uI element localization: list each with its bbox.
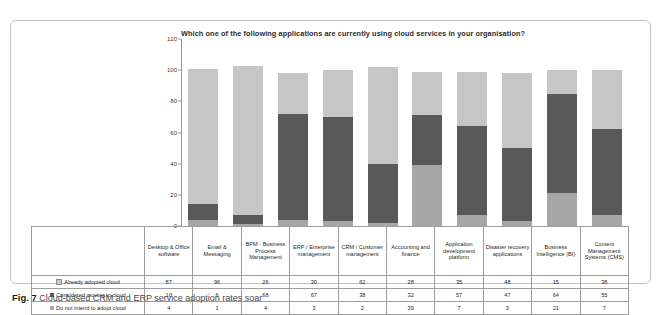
legend-swatch-icon xyxy=(56,279,62,285)
bar-segment xyxy=(233,66,263,216)
table-column-header: Business Intelligence (BI) xyxy=(532,227,580,276)
bar-segment xyxy=(323,117,353,221)
bar-segment xyxy=(412,115,442,165)
stacked-bar xyxy=(592,70,622,226)
bar-slot xyxy=(360,39,405,226)
bar-segment xyxy=(502,148,532,221)
table-column-header: Content Management Systems (CMS) xyxy=(580,227,628,276)
bar-segment xyxy=(368,164,398,223)
bar-segment xyxy=(502,73,532,148)
table-cell-value: 96 xyxy=(193,276,241,289)
bar-slot xyxy=(405,39,450,226)
table-column-header: Accounting and finance xyxy=(386,227,434,276)
table-cell-value: 1 xyxy=(193,302,241,315)
bar-segment xyxy=(412,165,442,226)
table-column-header: ERP / Enterprise management xyxy=(290,227,338,276)
table-cell-value: 2 xyxy=(338,302,386,315)
table-cell-value: 39 xyxy=(386,302,434,315)
stacked-bar xyxy=(412,72,442,226)
table-cell-value: 87 xyxy=(145,276,193,289)
y-axis-tick-label: 100 xyxy=(167,67,177,73)
y-axis-tick-label: 120 xyxy=(167,36,177,42)
table-corner-cell xyxy=(32,227,145,276)
bar-segment xyxy=(547,193,577,226)
bar-segment xyxy=(457,72,487,127)
bar-slot xyxy=(315,39,360,226)
bar-series-container xyxy=(181,39,629,226)
bar-segment xyxy=(412,72,442,116)
bar-slot xyxy=(226,39,271,226)
table-column-header: Desktop & Office software xyxy=(145,227,193,276)
table-cell-value: 7 xyxy=(580,302,628,315)
figure-caption: Fig. 7 Cloud-based CRM and ERP service a… xyxy=(12,292,652,303)
table-column-header: Application development platform xyxy=(435,227,483,276)
table-column-header: CRM / Customer management xyxy=(338,227,386,276)
bar-segment xyxy=(323,70,353,117)
bar-segment xyxy=(233,215,263,224)
y-axis-tick-label: 60 xyxy=(170,130,177,136)
stacked-bar xyxy=(188,69,218,226)
legend-row-label: Already adopted cloud xyxy=(32,276,145,289)
bar-slot xyxy=(584,39,629,226)
table-cell-value: 26 xyxy=(241,276,289,289)
stacked-bar xyxy=(278,73,308,226)
bar-segment xyxy=(592,70,622,129)
bar-slot xyxy=(539,39,584,226)
table-column-header: BPM - Business Process Management xyxy=(241,227,289,276)
bar-segment xyxy=(278,73,308,114)
table-column-header: Email & Messaging xyxy=(193,227,241,276)
legend-label-text: Do not intend to adopt cloud xyxy=(56,305,126,311)
table-cell-value: 48 xyxy=(483,276,531,289)
bar-segment xyxy=(188,69,218,205)
figure-caption-label: Fig. 7 xyxy=(12,292,37,303)
stacked-bar xyxy=(457,72,487,226)
bar-slot xyxy=(450,39,495,226)
stacked-bar xyxy=(502,73,532,226)
bar-segment xyxy=(547,94,577,194)
table-cell-value: 62 xyxy=(338,276,386,289)
table-cell-value: 4 xyxy=(145,302,193,315)
table-cell-value: 3 xyxy=(483,302,531,315)
table-cell-value: 35 xyxy=(435,276,483,289)
figure-caption-text: Cloud-based CRM and ERP service adoption… xyxy=(39,293,262,303)
y-axis-tick-label: 80 xyxy=(170,98,177,104)
table-cell-value: 7 xyxy=(435,302,483,315)
legend-row-label: Do not intend to adopt cloud xyxy=(32,302,145,315)
bar-segment xyxy=(592,215,622,226)
y-axis-tick-label: 20 xyxy=(170,192,177,198)
table-row: Desktop & Office softwareEmail & Messagi… xyxy=(32,227,629,276)
legend-swatch-icon xyxy=(50,306,54,310)
table-cell-value: 30 xyxy=(290,276,338,289)
stacked-bar xyxy=(547,70,577,226)
bar-segment xyxy=(457,126,487,215)
bar-slot xyxy=(495,39,540,226)
bar-segment xyxy=(188,204,218,220)
stacked-bar xyxy=(233,66,263,226)
bar-slot xyxy=(271,39,316,226)
figure-card: Which one of the following applications … xyxy=(10,20,651,284)
stacked-bar xyxy=(323,70,353,226)
stacked-bar xyxy=(368,67,398,226)
table-cell-value: 4 xyxy=(241,302,289,315)
bar-segment xyxy=(547,70,577,93)
bar-segment xyxy=(457,215,487,226)
table-cell-value: 28 xyxy=(386,276,434,289)
table-cell-value: 38 xyxy=(580,276,628,289)
bar-segment xyxy=(368,67,398,164)
bar-segment xyxy=(592,129,622,215)
legend-label-text: Already adopted cloud xyxy=(64,279,120,285)
table-cell-value: 21 xyxy=(532,302,580,315)
table-row: Do not intend to adopt cloud414323973217 xyxy=(32,302,629,315)
y-axis-tick-label: 40 xyxy=(170,161,177,167)
table-column-header: Disaster recovery applications xyxy=(483,227,531,276)
bar-segment xyxy=(278,114,308,220)
table-cell-value: 15 xyxy=(532,276,580,289)
bar-slot xyxy=(181,39,226,226)
table-cell-value: 3 xyxy=(290,302,338,315)
table-row: Already adopted cloud8796263062283548153… xyxy=(32,276,629,289)
